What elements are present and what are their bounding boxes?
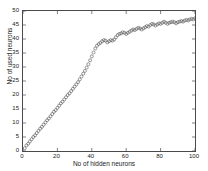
x-tick-label: 40 <box>81 153 101 159</box>
figure-scatter-plot: 05101520253035404550 020406080100 No of … <box>0 0 208 171</box>
x-axis-label: No of hidden neurons <box>0 160 208 167</box>
y-axis-label-wrapper: No of used neurons <box>6 1 16 111</box>
y-tick-label: 5 <box>0 133 19 139</box>
x-tick-label: 60 <box>115 153 135 159</box>
x-tick-label: 80 <box>150 153 170 159</box>
x-tick-label: 0 <box>12 153 32 159</box>
x-tick-label: 20 <box>46 153 66 159</box>
y-axis-label: No of used neurons <box>6 1 13 111</box>
x-tick-label: 100 <box>184 153 204 159</box>
y-tick-label: 10 <box>0 119 19 125</box>
plot-frame <box>22 10 196 152</box>
data-layer <box>23 11 195 151</box>
plot-canvas <box>23 11 195 151</box>
